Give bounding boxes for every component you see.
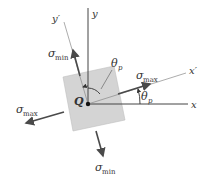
sigma-max-left-label: σ max (16, 103, 38, 118)
svg-text:max: max (143, 76, 158, 84)
y-prime-axis-label: y′ (51, 13, 61, 24)
svg-text:min: min (55, 54, 69, 62)
x-prime-axis-label: x′ (189, 65, 198, 76)
svg-text:θ: θ (111, 57, 118, 70)
theta-p-arc-right (138, 89, 140, 104)
sigma-max-right-label: σ max (136, 69, 158, 84)
y-axis-label: y (91, 8, 98, 19)
sigma-min-down-arrow (96, 131, 103, 156)
stress-element-square (63, 66, 125, 131)
svg-text:p: p (118, 64, 123, 72)
stress-element-diagram: y x y′ x′ Q θ p θ p σ min σ max σ max σ … (0, 0, 210, 180)
svg-text:p: p (148, 97, 153, 105)
theta-p-label-right: θ p (141, 90, 153, 105)
theta-p-label-top: θ p (111, 57, 123, 72)
svg-text:min: min (102, 168, 116, 176)
x-axis-label: x (191, 99, 197, 110)
svg-text:θ: θ (141, 90, 148, 103)
svg-text:max: max (23, 110, 38, 118)
origin-point-Q (86, 102, 90, 106)
sigma-min-top-label: σ min (48, 47, 69, 62)
origin-label: Q (74, 95, 84, 108)
sigma-min-up-arrow (73, 50, 80, 76)
sigma-min-bottom-label: σ min (95, 161, 116, 176)
